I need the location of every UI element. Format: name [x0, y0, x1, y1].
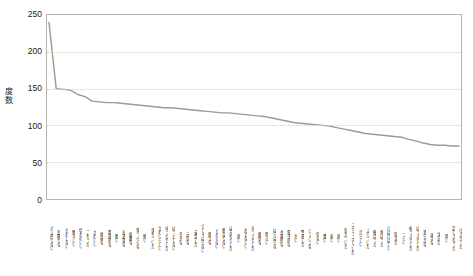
x-axis-category-label: 弱い: [326, 202, 333, 274]
x-axis-category-label: 甘い: [290, 202, 297, 274]
x-axis-category-label: 角ばった: [376, 202, 383, 274]
y-axis-tick-label: 250: [28, 9, 42, 19]
x-axis-category-label: 帖っきりした: [405, 202, 412, 274]
plot-area: [46, 14, 462, 200]
x-axis-category-label: 元気な: [182, 202, 189, 274]
series-svg: [47, 15, 461, 199]
frequency-series-line: [49, 22, 459, 146]
x-axis-category-label: 平凡な: [175, 202, 182, 274]
x-axis-category-label: 軽快な: [254, 202, 261, 274]
x-axis-category-label: 粗い: [111, 202, 118, 274]
x-axis-category-label: 開放的な: [103, 202, 110, 274]
x-axis-category-label: 細ばった: [369, 202, 376, 274]
x-axis-category-label: 汚らしい: [354, 202, 361, 274]
gridline: [47, 52, 461, 53]
y-axis-tick-label: 150: [28, 83, 42, 93]
x-axis-category-label: おとなしい: [240, 202, 247, 274]
x-axis-category-label: あっさりした: [247, 202, 254, 274]
x-axis-category-label: 落ちついた: [146, 202, 153, 274]
x-axis-category-label: 耳障りな: [53, 202, 60, 274]
y-axis-tick-label: 50: [33, 158, 42, 168]
x-axis-category-label: 派手な: [426, 202, 433, 274]
x-axis-category-label: 切れのいい: [75, 202, 82, 274]
x-axis-category-label: かわいらしい: [154, 202, 161, 274]
x-axis-category-label: バラバラな: [304, 202, 311, 274]
x-axis-category-label: つらい: [397, 202, 404, 274]
x-axis-category-label: はっきりした: [412, 202, 419, 274]
x-axis-category-label: 明るい: [261, 202, 268, 274]
x-axis-category-label: せわしない: [60, 202, 67, 274]
y-axis-tick-label: 200: [28, 46, 42, 56]
gridline: [47, 89, 461, 90]
x-axis-category-label: くどくない: [211, 202, 218, 274]
x-axis-category-label: こもった: [82, 202, 89, 274]
x-axis-category-label: お洒落な: [118, 202, 125, 274]
x-axis-category-label: 電子的な: [283, 202, 290, 274]
x-axis-category-label: 軽い: [139, 202, 146, 274]
x-axis-category-label: 滑らかな: [419, 202, 426, 274]
x-axis-category-label: 狂えた: [390, 202, 397, 274]
x-axis-category-label: 重い: [319, 202, 326, 274]
x-axis-category-label: 物足りない: [218, 202, 225, 274]
x-axis-category-label: 綺麗な: [125, 202, 132, 274]
x-axis-category-label: ぼんやりした: [225, 202, 232, 274]
x-axis-category-label: かわいい: [89, 202, 96, 274]
x-axis-category-label: でしゃばらない: [197, 202, 204, 274]
x-axis-category-label: ゴチャゴチャした: [347, 202, 354, 274]
x-axis-category-label: 人工的でない: [46, 202, 53, 274]
x-axis-category-label: 薄っぺらな: [132, 202, 139, 274]
x-axis-category-label: ゆったりした: [161, 202, 168, 274]
x-axis-category-label: ふらついた: [362, 202, 369, 274]
x-axis-category-label: 気がついた: [340, 202, 347, 274]
x-axis-category-label: 警戒した: [297, 202, 304, 274]
x-axis-category-label: 切ない: [311, 202, 318, 274]
y-axis-tick-label: 100: [28, 121, 42, 131]
x-axis-category-label: 静かな: [204, 202, 211, 274]
x-axis-category-label: 鋭い: [333, 202, 340, 274]
x-axis-category-label: 話しさなった: [448, 202, 455, 274]
y-axis-tick-label: 0: [37, 195, 42, 205]
gridline: [47, 125, 461, 126]
x-axis-category-label: ばらばらな: [268, 202, 275, 274]
x-axis-category-label: 小さかった: [455, 202, 462, 274]
y-axis-tick-labels: 250200150100500: [14, 0, 44, 276]
gridline: [47, 162, 461, 163]
x-axis-category-label: 地味な: [96, 202, 103, 274]
x-axis-category-labels: 人工的でない耳障りなせわしない騒々しい切れのいいこもったかわいい地味な開放的な粗…: [46, 202, 462, 276]
x-axis-category-label: けばけばしい: [383, 202, 390, 274]
x-axis-category-label: 安定した: [189, 202, 196, 274]
frequency-line-chart: 度数 250200150100500 人工的でない耳障りなせわしない騒々しい切れ…: [0, 0, 473, 276]
x-axis-category-label: ぱっとしない: [168, 202, 175, 274]
x-axis-category-label: 沈んだ: [433, 202, 440, 274]
x-axis-category-label: 金属的な: [276, 202, 283, 274]
x-axis-category-label: 騒々しい: [68, 202, 75, 274]
x-axis-category-label: 鋭い: [232, 202, 239, 274]
x-axis-category-label: 暗い: [440, 202, 447, 274]
